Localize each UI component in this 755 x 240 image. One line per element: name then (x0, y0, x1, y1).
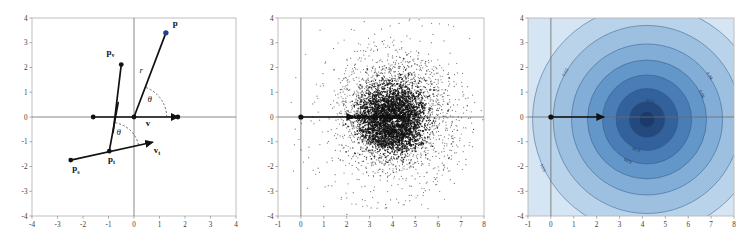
x-tick-label: 5 (414, 221, 418, 229)
math-label-p-t: pt (108, 154, 116, 165)
x-tick-label: 7 (459, 221, 463, 229)
x-tick-label: -3 (55, 221, 61, 229)
x-tick-label: 4 (641, 221, 645, 229)
y-tick-label: 2 (520, 64, 524, 72)
x-tick-label: 1 (322, 221, 326, 229)
y-tick-label: -4 (22, 213, 28, 221)
x-tick-label: 5 (664, 221, 668, 229)
three-panel-figure: -4-3-2-101234-4-3-2-101234θθppvpsptvvtr … (0, 0, 755, 240)
x-tick-label: -1 (275, 221, 281, 229)
x-tick-label: 6 (686, 221, 690, 229)
panel-scatter-cloud: -1012345678-4-3-2-101234 (252, 0, 502, 240)
y-tick-label: -4 (518, 213, 524, 221)
y-tick-label: -1 (268, 138, 274, 146)
math-label-v: v (146, 118, 151, 128)
y-tick-label: 4 (520, 15, 524, 23)
point-marker-p (163, 30, 168, 35)
origin-marker (548, 114, 553, 119)
y-tick-label: -3 (22, 188, 28, 196)
y-tick-label: 0 (520, 114, 524, 122)
x-tick-label: 0 (549, 221, 553, 229)
y-tick-label: -3 (518, 188, 524, 196)
point-marker-origin (132, 115, 137, 120)
math-label-p-s: ps (72, 163, 80, 174)
panel-contour-map: 0.010.020.040.060.080.100.12-1012345678-… (502, 0, 755, 240)
point-marker-p_t (107, 149, 112, 154)
x-tick-label: -4 (29, 221, 35, 229)
x-tick-label: 7 (709, 221, 713, 229)
origin-marker (298, 114, 303, 119)
y-tick-label: 1 (270, 89, 274, 97)
x-tick-label: 2 (345, 221, 349, 229)
point-marker-p_s (68, 158, 73, 163)
panel-vector-diagram: -4-3-2-101234-4-3-2-101234θθppvpsptvvtr (0, 0, 252, 240)
x-tick-label: 8 (482, 221, 486, 229)
y-tick-label: -4 (268, 213, 274, 221)
x-tick-label: 6 (436, 221, 440, 229)
y-tick-label: 0 (24, 114, 28, 122)
y-tick-label: 2 (24, 64, 28, 72)
point-marker-v_head (175, 115, 180, 120)
x-tick-label: 0 (299, 221, 303, 229)
math-label-r: r (139, 65, 143, 75)
y-tick-label: 0 (270, 114, 274, 122)
x-tick-label: 3 (209, 221, 213, 229)
x-tick-label: 3 (368, 221, 372, 229)
y-tick-label: -3 (268, 188, 274, 196)
scatter-cloud-svg: -1012345678-4-3-2-101234 (252, 0, 502, 240)
math-label-v-t: vt (154, 145, 162, 156)
y-tick-label: -2 (268, 163, 274, 171)
x-tick-label: 1 (158, 221, 162, 229)
x-tick-label: -1 (525, 221, 531, 229)
x-tick-label: 3 (618, 221, 622, 229)
y-tick-label: -2 (22, 163, 28, 171)
y-tick-label: 2 (270, 64, 274, 72)
x-tick-label: -2 (80, 221, 86, 229)
y-tick-label: 3 (270, 39, 274, 47)
contour-fills-group: 0.010.020.040.060.080.100.12 (528, 6, 755, 234)
point-marker-v_tail (91, 115, 96, 120)
y-tick-label: -1 (22, 138, 28, 146)
angle-label-theta: θ (148, 94, 153, 104)
vector-diagram-svg: -4-3-2-101234-4-3-2-101234θθppvpsptvvtr (0, 0, 252, 240)
x-tick-label: 2 (183, 221, 187, 229)
x-tick-label: 4 (234, 221, 238, 229)
y-tick-label: 4 (24, 15, 28, 23)
x-tick-label: 2 (595, 221, 599, 229)
point-marker-p_v (119, 62, 124, 67)
x-tick-label: 0 (132, 221, 136, 229)
y-tick-label: -2 (518, 163, 524, 171)
y-tick-label: 1 (520, 89, 524, 97)
y-tick-label: -1 (518, 138, 524, 146)
y-tick-label: 3 (24, 39, 28, 47)
x-tick-label: 1 (572, 221, 576, 229)
math-label-p: p (173, 18, 178, 28)
math-label-p-v: pv (106, 47, 115, 58)
x-tick-label: 8 (732, 221, 736, 229)
angle-label-theta: θ (116, 127, 121, 137)
y-tick-label: 3 (520, 39, 524, 47)
y-tick-label: 4 (270, 15, 274, 23)
contour-map-svg: 0.010.020.040.060.080.100.12-1012345678-… (502, 0, 755, 240)
y-tick-label: 1 (24, 89, 28, 97)
x-tick-label: -1 (106, 221, 112, 229)
x-tick-label: 4 (391, 221, 395, 229)
